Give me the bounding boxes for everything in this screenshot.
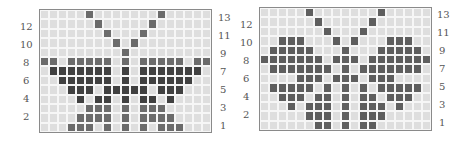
empty-cell [148,10,157,19]
empty-cell [94,48,103,57]
filled-cell [323,27,332,36]
filled-cell [386,36,395,45]
empty-cell [184,10,193,19]
empty-cell [175,19,184,28]
empty-cell [130,95,139,104]
filled-cell [121,66,130,75]
filled-cell [130,38,139,47]
left-grid-row-label: 10 [20,40,33,50]
empty-cell [121,38,130,47]
filled-cell [278,55,287,64]
empty-cell [40,48,49,57]
filled-cell [404,46,413,55]
filled-cell [404,93,413,102]
empty-cell [202,95,211,104]
empty-cell [305,27,314,36]
filled-cell [359,64,368,73]
empty-cell [175,113,184,122]
empty-cell [112,29,121,38]
left-grid-row-label: 4 [23,94,29,104]
empty-cell [157,95,166,104]
empty-cell [296,27,305,36]
empty-cell [332,111,341,120]
left-grid-row-label: 6 [23,76,29,86]
filled-cell [139,85,148,94]
filled-cell [395,36,404,45]
empty-cell [269,121,278,130]
filled-cell [157,123,166,132]
empty-cell [422,83,431,92]
empty-cell [305,93,314,102]
empty-cell [130,57,139,66]
empty-cell [260,46,269,55]
filled-cell [166,57,175,66]
empty-cell [260,102,269,111]
filled-cell [359,83,368,92]
filled-cell [76,76,85,85]
empty-cell [386,8,395,17]
filled-cell [350,74,359,83]
filled-cell [166,123,175,132]
empty-cell [413,74,422,83]
filled-cell [76,95,85,104]
filled-cell [395,102,404,111]
right-grid-row-label: 1 [439,118,445,128]
right-grid-row-label: 11 [437,28,450,38]
filled-cell [202,57,211,66]
empty-cell [58,85,67,94]
empty-cell [85,38,94,47]
filled-cell [305,8,314,17]
empty-cell [305,17,314,26]
empty-cell [157,29,166,38]
empty-cell [76,29,85,38]
empty-cell [422,121,431,130]
empty-cell [58,10,67,19]
empty-cell [359,74,368,83]
filled-cell [314,55,323,64]
filled-cell [368,102,377,111]
empty-cell [413,8,422,17]
empty-cell [413,27,422,36]
filled-cell [166,85,175,94]
empty-cell [85,48,94,57]
empty-cell [260,121,269,130]
empty-cell [94,38,103,47]
empty-cell [395,111,404,120]
empty-cell [175,29,184,38]
left-grid-row-label: 8 [23,58,29,68]
empty-cell [40,38,49,47]
empty-cell [287,121,296,130]
filled-cell [94,76,103,85]
filled-cell [395,46,404,55]
filled-cell [49,57,58,66]
empty-cell [103,48,112,57]
empty-cell [341,17,350,26]
empty-cell [350,102,359,111]
filled-cell [296,64,305,73]
empty-cell [404,111,413,120]
filled-cell [323,102,332,111]
filled-cell [94,57,103,66]
filled-cell [386,83,395,92]
empty-cell [121,29,130,38]
right-grid-row-label: 2 [243,110,249,120]
empty-cell [202,19,211,28]
empty-cell [350,27,359,36]
right-grid-row-label: 13 [437,10,450,20]
filled-cell [341,83,350,92]
empty-cell [314,8,323,17]
empty-cell [260,27,269,36]
filled-cell [287,55,296,64]
empty-cell [287,8,296,17]
empty-cell [139,19,148,28]
empty-cell [130,10,139,19]
filled-cell [395,64,404,73]
left-grid-row-label: 2 [23,112,29,122]
empty-cell [314,83,323,92]
empty-cell [332,64,341,73]
empty-cell [350,111,359,120]
empty-cell [269,93,278,102]
empty-cell [350,46,359,55]
filled-cell [76,123,85,132]
left-grid-row-label: 13 [218,13,231,23]
